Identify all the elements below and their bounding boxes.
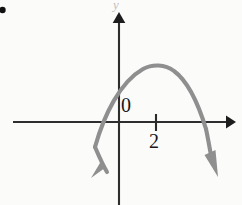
- parabola-right-arrow-icon: [205, 150, 219, 177]
- origin-label: 0: [121, 95, 131, 115]
- x-axis-arrow-icon: [226, 116, 236, 129]
- stray-dot-mark: [0, 7, 6, 13]
- parabola-figure: y 0 2: [0, 0, 242, 205]
- y-axis-label: y: [113, 0, 119, 11]
- y-axis-arrow-icon: [113, 12, 126, 23]
- x-tick-label-2: 2: [149, 131, 159, 151]
